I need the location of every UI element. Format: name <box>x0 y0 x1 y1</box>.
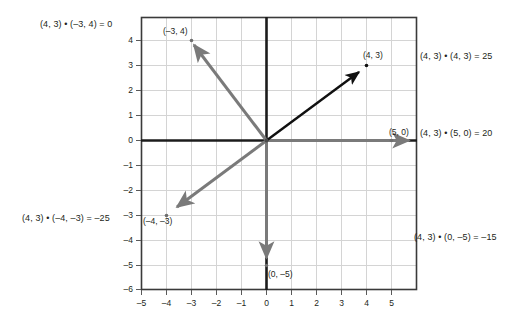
vector-dot-product-figure: (4, 3) • (–3, 4) = 0 (4, 3) • (4, 3) = 2… <box>0 0 518 321</box>
x-tick-label-0: 0 <box>256 298 277 308</box>
x-tick-label-1: 1 <box>281 298 302 308</box>
y-tick-label-neg2: –2 <box>113 185 133 195</box>
annotation-dot-product-neg4-neg3: (4, 3) • (–4, –3) = –25 <box>22 213 110 223</box>
coordinate-plane-svg <box>0 0 518 321</box>
annotation-dot-product-0-neg5: (4, 3) • (0, –5) = –15 <box>414 232 497 242</box>
point-label-neg4-neg3: (–4, –3) <box>143 216 172 226</box>
endpoint-dot-0-neg5 <box>265 264 269 268</box>
point-label-neg3-4: (–3, 4) <box>163 26 188 36</box>
x-tick-label-4: 4 <box>356 298 377 308</box>
x-axis-ticks <box>142 290 392 295</box>
x-tick-label-neg3: –3 <box>181 298 202 308</box>
y-tick-label-1: 1 <box>113 110 133 120</box>
y-tick-label-3: 3 <box>113 60 133 70</box>
x-tick-label-neg2: –2 <box>206 298 227 308</box>
y-tick-label-neg4: –4 <box>113 235 133 245</box>
x-tick-label-2: 2 <box>306 298 327 308</box>
y-axis-ticks <box>136 41 141 290</box>
x-tick-label-neg1: –1 <box>231 298 252 308</box>
y-tick-label-neg1: –1 <box>113 160 133 170</box>
y-tick-label-4: 4 <box>113 35 133 45</box>
endpoint-dot-5-0 <box>390 139 394 143</box>
point-label-4-3: (4, 3) <box>363 50 383 60</box>
y-tick-label-neg6: –6 <box>113 284 133 294</box>
point-label-0-neg5: (0, –5) <box>268 269 293 279</box>
y-tick-label-neg5: –5 <box>113 260 133 270</box>
x-tick-label-3: 3 <box>331 298 352 308</box>
x-tick-label-neg4: –4 <box>156 298 177 308</box>
annotation-dot-product-neg3-4: (4, 3) • (–3, 4) = 0 <box>40 19 112 29</box>
y-tick-label-0: 0 <box>113 135 133 145</box>
y-tick-label-neg3: –3 <box>113 210 133 220</box>
x-tick-label-neg5: –5 <box>131 298 152 308</box>
origin-dot <box>265 139 269 143</box>
endpoint-dot-neg3-4 <box>190 39 194 43</box>
y-tick-label-2: 2 <box>113 85 133 95</box>
x-tick-label-5: 5 <box>381 298 402 308</box>
endpoint-dot-4-3 <box>365 64 369 68</box>
annotation-dot-product-5-0: (4, 3) • (5, 0) = 20 <box>420 128 492 138</box>
annotation-dot-product-4-3: (4, 3) • (4, 3) = 25 <box>420 51 492 61</box>
point-label-5-0: (5, 0) <box>389 127 409 137</box>
